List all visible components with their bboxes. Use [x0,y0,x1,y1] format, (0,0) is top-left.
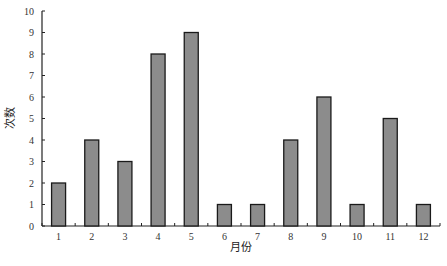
bar-month-3 [118,162,132,227]
x-tick-label: 12 [418,231,428,242]
bar-month-6 [217,205,231,227]
x-tick-label: 4 [156,231,161,242]
x-tick-label: 5 [189,231,194,242]
y-tick-label: 6 [29,92,34,103]
bar-month-10 [350,205,364,227]
bar-month-12 [416,205,430,227]
bar-month-5 [184,33,198,227]
bar-month-9 [317,97,331,226]
y-tick-label: 5 [29,113,34,124]
x-tick-label: 11 [385,231,395,242]
x-tick-label: 1 [56,231,61,242]
y-tick-label: 3 [29,156,34,167]
x-tick-label: 7 [255,231,260,242]
x-tick-label: 3 [122,231,127,242]
x-axis-label: 月份 [230,241,252,254]
y-tick-label: 2 [29,178,34,189]
bar-month-1 [52,183,66,226]
y-tick-label: 7 [29,70,34,81]
y-tick-label: 0 [29,221,34,232]
x-tick-label: 10 [352,231,362,242]
bar-chart: 012345678910 123456789101112 次数 月份 [0,0,447,266]
bars [52,33,431,227]
y-tick-label: 8 [29,49,34,60]
x-tick-label: 6 [222,231,227,242]
bar-month-4 [151,54,165,226]
bar-month-8 [284,140,298,226]
y-tick-label: 10 [24,6,34,17]
bar-month-11 [383,119,397,227]
y-axis-label: 次数 [3,107,17,129]
y-tick-label: 9 [29,27,34,38]
y-tick-label: 4 [29,135,34,146]
x-tick-label: 8 [288,231,293,242]
bar-month-2 [85,140,99,226]
bar-month-7 [251,205,265,227]
y-tick-label: 1 [29,199,34,210]
x-axis: 123456789101112 [42,223,440,242]
y-axis: 012345678910 [24,6,45,232]
x-tick-label: 9 [321,231,326,242]
x-tick-label: 2 [89,231,94,242]
